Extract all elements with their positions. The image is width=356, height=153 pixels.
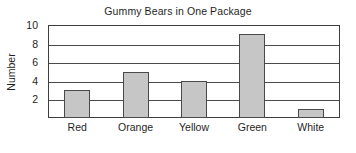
bar-chart-figure: Gummy Bears in One Package Number 246810…: [0, 0, 356, 153]
y-tick-8: 8: [12, 39, 38, 49]
bar-slot-green: [223, 25, 281, 118]
chart-title: Gummy Bears in One Package: [0, 5, 356, 17]
y-tick-2: 2: [12, 94, 38, 104]
bar-yellow[interactable]: [181, 81, 207, 118]
bar-slot-orange: [106, 25, 164, 118]
y-tick-4: 4: [12, 76, 38, 86]
bar-orange[interactable]: [123, 72, 149, 119]
y-tick-6: 6: [12, 57, 38, 67]
y-axis-label: Number: [5, 44, 19, 100]
x-tick-green: Green: [223, 121, 281, 133]
bar-red[interactable]: [64, 90, 90, 118]
y-tick-10: 10: [12, 20, 38, 30]
bar-slot-yellow: [165, 25, 223, 118]
bar-green[interactable]: [239, 34, 265, 118]
x-axis-tick-labels: RedOrangeYellowGreenWhite: [48, 121, 340, 137]
bar-slot-red: [48, 25, 106, 118]
bar-slot-white: [282, 25, 340, 118]
x-tick-white: White: [282, 121, 340, 133]
x-tick-red: Red: [48, 121, 106, 133]
bars-layer: [48, 25, 340, 118]
x-tick-orange: Orange: [106, 121, 164, 133]
bar-white[interactable]: [298, 109, 324, 118]
x-tick-yellow: Yellow: [165, 121, 223, 133]
